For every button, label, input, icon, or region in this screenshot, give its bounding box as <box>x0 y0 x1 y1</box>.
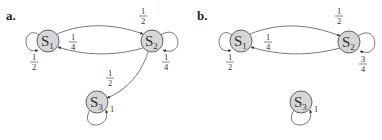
svg-text:1: 1 <box>141 6 145 16</box>
panel-a-label: a. <box>6 8 16 23</box>
svg-text:2: 2 <box>108 78 112 88</box>
svg-text:4: 4 <box>71 42 76 52</box>
state-s2: S2 <box>141 30 163 52</box>
label-s1-s1: 1 2 <box>226 52 234 72</box>
label-s1-s2: 1 2 <box>335 6 343 26</box>
label-s3-s3: 1 <box>314 104 318 114</box>
svg-text:4: 4 <box>361 64 366 74</box>
state-s3: S3 <box>290 91 312 113</box>
state-s3: S3 <box>86 91 108 113</box>
svg-text:4: 4 <box>266 42 271 52</box>
edge-s2-s3 <box>107 52 148 98</box>
svg-text:2: 2 <box>141 16 145 26</box>
svg-text:1: 1 <box>108 68 112 78</box>
svg-text:1: 1 <box>266 32 270 42</box>
label-s1-s2: 1 2 <box>139 6 147 26</box>
panel-b: b. S1 S2 S3 1 2 1 <box>197 6 375 125</box>
label-s2-s1: 1 4 <box>264 32 272 52</box>
label-s2-s2: 3 4 <box>359 54 367 74</box>
label-s1-s1: 1 2 <box>30 52 38 72</box>
edge-s2-s2 <box>358 33 375 53</box>
panel-b-label: b. <box>197 8 207 23</box>
svg-text:4: 4 <box>164 62 169 72</box>
svg-text:1: 1 <box>71 32 75 42</box>
edge-s2-s1 <box>251 47 340 54</box>
state-s1: S1 <box>230 30 252 52</box>
svg-text:1: 1 <box>228 52 232 62</box>
svg-text:2: 2 <box>32 62 36 72</box>
state-s2: S2 <box>338 31 360 53</box>
svg-text:3: 3 <box>361 54 365 64</box>
edge-s2-s2 <box>161 32 178 51</box>
panel-a: a. S1 S2 S3 1 2 1 <box>6 6 178 125</box>
svg-text:1: 1 <box>337 6 341 16</box>
svg-text:1: 1 <box>164 52 168 62</box>
svg-text:2: 2 <box>337 16 341 26</box>
edge-s1-s2 <box>250 26 340 36</box>
state-s1: S1 <box>37 30 59 52</box>
markov-chain-diagram: a. S1 S2 S3 1 2 1 <box>0 0 382 140</box>
svg-text:2: 2 <box>228 62 232 72</box>
svg-text:1: 1 <box>32 52 36 62</box>
label-s2-s1: 1 4 <box>69 32 77 52</box>
label-s2-s2: 1 4 <box>162 52 170 72</box>
label-s2-s3: 1 2 <box>106 68 114 88</box>
label-s3-s3: 1 <box>110 104 114 114</box>
